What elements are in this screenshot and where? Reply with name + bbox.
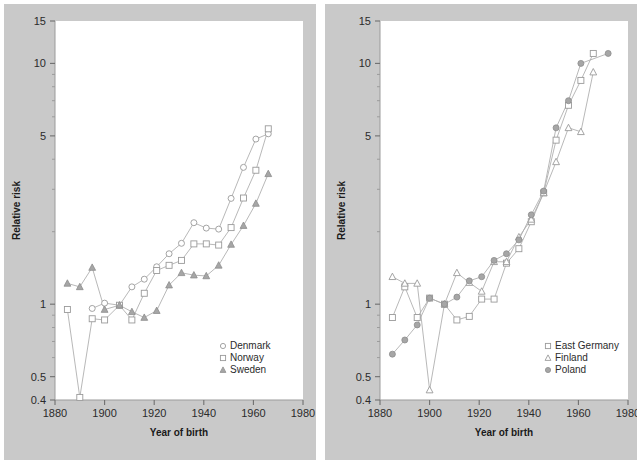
y-tick-label: 1	[365, 298, 371, 310]
x-tick-label: 1920	[467, 407, 491, 419]
figure-edge-top	[0, 0, 641, 4]
data-point-square-open	[240, 195, 246, 201]
data-point-circle-filled	[454, 294, 460, 300]
y-tick-label: 0.5	[31, 371, 46, 383]
data-point-circle-open	[129, 284, 135, 290]
data-point-square-open	[491, 296, 497, 302]
plot-left: 0.40.5151015188019001920194019601980Year…	[0, 0, 316, 463]
legend-item-east-germany: East Germany	[555, 340, 619, 351]
data-point-square-open	[141, 290, 147, 296]
data-point-circle-filled	[479, 274, 485, 280]
panel-divider	[316, 0, 325, 463]
x-tick-label: 1960	[241, 407, 265, 419]
x-axis-title: Year of birth	[150, 427, 208, 438]
data-point-circle-filled	[553, 125, 559, 131]
y-axis-title: Relative risk	[11, 181, 22, 240]
data-point-square-open	[77, 394, 83, 400]
data-point-square-open	[203, 241, 209, 247]
data-point-square-open	[479, 296, 485, 302]
data-point-square-open	[578, 77, 584, 83]
y-tick-label: 10	[34, 57, 46, 69]
data-point-circle-open	[203, 225, 209, 231]
data-point-square-open	[454, 317, 460, 323]
data-point-circle-open	[216, 226, 222, 232]
x-tick-label: 1900	[417, 407, 441, 419]
data-point-square-open	[265, 126, 271, 132]
data-point-circle-open	[253, 136, 259, 142]
x-tick-label: 1940	[517, 407, 541, 419]
y-tick-label: 15	[359, 15, 371, 27]
data-point-square-open	[553, 137, 559, 143]
data-point-circle-filled	[516, 237, 522, 243]
data-point-square-open	[228, 225, 234, 231]
data-point-circle-filled	[414, 322, 420, 328]
data-point-circle-filled	[389, 351, 395, 357]
data-point-square-open	[414, 315, 420, 321]
x-tick-label: 1880	[43, 407, 67, 419]
data-point-square-open	[166, 262, 172, 268]
data-point-square-open	[590, 50, 596, 56]
legend-item-denmark: Denmark	[230, 340, 272, 351]
plot-right: 0.40.5151015188019001920194019601980Year…	[325, 0, 641, 463]
data-point-square-open	[466, 313, 472, 319]
data-point-circle-filled	[441, 301, 447, 307]
legend-marker-square-open	[545, 343, 550, 348]
data-point-circle-filled	[427, 295, 433, 301]
data-point-circle-open	[228, 195, 234, 201]
data-point-square-open	[64, 307, 70, 313]
data-point-square-open	[154, 268, 160, 274]
x-axis-title: Year of birth	[475, 427, 533, 438]
data-point-square-open	[516, 246, 522, 252]
data-point-square-open	[191, 241, 197, 247]
data-point-circle-open	[191, 220, 197, 226]
y-tick-label: 5	[365, 130, 371, 142]
legend-item-norway: Norway	[230, 352, 264, 363]
data-point-square-open	[216, 242, 222, 248]
data-point-circle-filled	[578, 60, 584, 66]
y-tick-label: 1	[40, 298, 46, 310]
data-point-circle-filled	[466, 278, 472, 284]
chart-panel-left: 0.40.5151015188019001920194019601980Year…	[0, 0, 316, 463]
x-tick-label: 1880	[368, 407, 392, 419]
legend-marker-circle-open	[220, 343, 225, 348]
y-axis-title: Relative risk	[336, 181, 347, 240]
x-tick-label: 1960	[566, 407, 590, 419]
chart-panel-right: 0.40.5151015188019001920194019601980Year…	[325, 0, 641, 463]
data-point-square-open	[253, 167, 259, 173]
data-point-circle-open	[240, 164, 246, 170]
data-point-square-open	[178, 257, 184, 263]
figure-root: 0.40.5151015188019001920194019601980Year…	[0, 0, 641, 463]
legend-marker-circle-filled	[545, 367, 550, 372]
figure-edge-right	[637, 0, 641, 463]
data-point-square-open	[129, 317, 135, 323]
y-tick-label: 10	[359, 57, 371, 69]
data-point-circle-open	[89, 305, 95, 311]
y-tick-label: 15	[34, 15, 46, 27]
x-tick-label: 1900	[92, 407, 116, 419]
y-tick-label: 5	[40, 130, 46, 142]
data-point-circle-filled	[605, 50, 611, 56]
data-point-circle-filled	[402, 337, 408, 343]
x-tick-label: 1920	[142, 407, 166, 419]
figure-edge-left	[0, 0, 4, 463]
data-point-circle-open	[141, 276, 147, 282]
legend-item-finland: Finland	[555, 352, 588, 363]
data-point-circle-filled	[565, 98, 571, 104]
y-tick-label: 0.4	[356, 394, 371, 406]
data-point-circle-filled	[541, 188, 547, 194]
x-tick-label: 1980	[291, 407, 315, 419]
data-point-circle-filled	[503, 251, 509, 257]
data-point-circle-open	[178, 240, 184, 246]
legend-marker-square-open	[220, 355, 225, 360]
y-tick-label: 0.5	[356, 371, 371, 383]
legend-item-poland: Poland	[555, 364, 586, 375]
data-point-square-open	[89, 316, 95, 322]
data-point-circle-filled	[491, 257, 497, 263]
x-tick-label: 1940	[192, 407, 216, 419]
data-point-circle-open	[166, 251, 172, 257]
data-point-square-open	[102, 317, 108, 323]
legend-item-sweden: Sweden	[230, 364, 266, 375]
y-tick-label: 0.4	[31, 394, 46, 406]
data-point-circle-filled	[528, 212, 534, 218]
data-point-square-open	[389, 315, 395, 321]
